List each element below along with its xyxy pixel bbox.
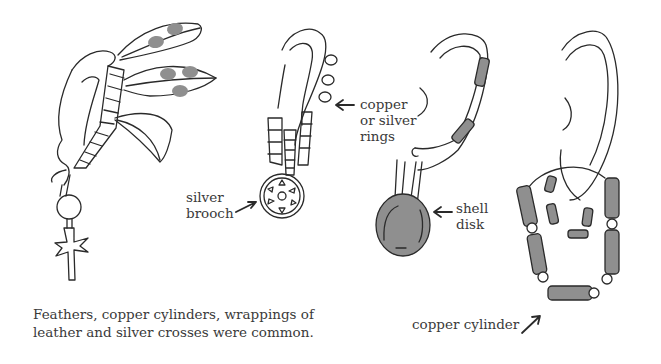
label-line: copper — [360, 96, 417, 112]
label-line: copper cylinder — [412, 316, 519, 332]
brooch-ear-figure — [236, 29, 354, 218]
arrow-icon — [336, 100, 354, 110]
label-line: silver — [186, 189, 234, 205]
feather-icon — [124, 66, 216, 97]
shell-disk-label: shell disk — [456, 200, 488, 232]
label-line: disk — [456, 216, 488, 232]
label-line: rings — [360, 128, 417, 144]
label-line: brooch — [186, 205, 234, 221]
label-line: shell — [456, 200, 488, 216]
ear-ornaments-illustration: silver brooch copper or silver rings she… — [0, 0, 661, 364]
cylinder-ear-figure — [516, 31, 619, 333]
arrow-icon — [434, 207, 452, 217]
feather-icon — [118, 22, 201, 60]
figure-caption: Feathers, copper cylinders, wrappings of… — [33, 305, 314, 341]
label-line: or silver — [360, 112, 417, 128]
bead-icon — [57, 195, 81, 219]
ring-icon — [319, 55, 337, 102]
silver-brooch-label: silver brooch — [186, 189, 234, 221]
arrow-icon — [236, 202, 256, 212]
brooch-icon — [260, 174, 304, 218]
feather-icon — [115, 114, 172, 162]
caption-line: leather and silver crosses were common. — [33, 323, 314, 341]
caption-line: Feathers, copper cylinders, wrappings of — [33, 305, 314, 323]
copper-cylinder-label: copper cylinder — [412, 316, 519, 332]
copper-cylinder-icon — [544, 175, 593, 238]
feather-ear-figure — [52, 22, 216, 280]
cross-icon — [55, 228, 88, 280]
arrow-icon — [522, 316, 540, 333]
rings-label: copper or silver rings — [360, 96, 417, 144]
